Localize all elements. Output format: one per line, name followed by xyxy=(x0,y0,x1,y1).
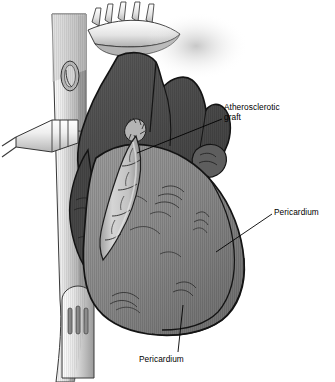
illustration-canvas xyxy=(0,0,335,382)
medical-illustration-figure: Atherosclerotic graft Pericardium Perica… xyxy=(0,0,335,382)
label-pericardium-right: Pericardium xyxy=(274,208,319,218)
label-atherosclerotic-graft: Atherosclerotic graft xyxy=(224,103,280,122)
label-pericardium-bottom: Pericardium xyxy=(139,355,184,365)
